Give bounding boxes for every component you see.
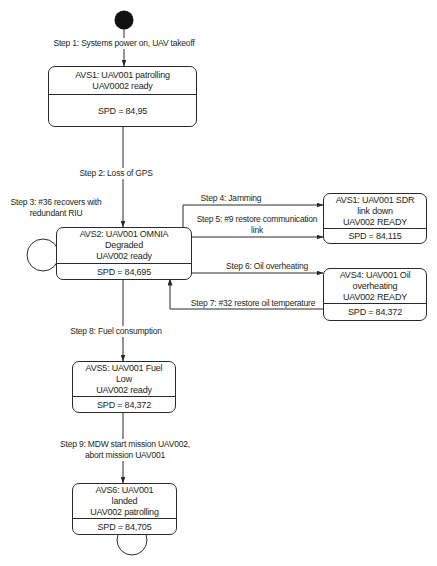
label-line: Step 5: #9 restore communication — [197, 214, 318, 225]
transition-label-step-7: Step 7: #32 restore oil temperature — [191, 298, 315, 309]
state-description: AVS1: UAV001 patrolling UAV0002 ready — [49, 67, 196, 95]
state-line: Degraded — [105, 240, 143, 251]
state-spd-value: SPD = 84,95 — [49, 95, 196, 126]
self-loop-arrow-step-3 — [27, 239, 59, 271]
label-line: Step 8: Fuel consumption — [70, 326, 162, 337]
initial-state-node — [115, 11, 134, 30]
label-line: Step 9: MDW start mission UAV002, — [60, 439, 190, 450]
state-description: AVS1: UAV001 SDR link down UAV002 READY — [324, 194, 426, 229]
state-spd-value: SPD = 84,695 — [57, 264, 191, 279]
state-line: UAV002 ready — [96, 385, 151, 396]
label-line: Step 7: #32 restore oil temperature — [191, 298, 315, 309]
label-line: Step 1: Systems power on, UAV takeoff — [53, 38, 194, 49]
state-line: link down — [357, 206, 393, 217]
state-diagram: AVS1: UAV001 patrolling UAV0002 ready SP… — [0, 0, 437, 566]
transition-label-step-9: Step 9: MDW start mission UAV002, abort … — [59, 439, 191, 461]
state-line: AVS1: UAV001 patrolling — [75, 70, 170, 81]
state-description: AVS5: UAV001 Fuel Low UAV002 ready — [73, 362, 175, 397]
state-line: AVS1: UAV001 SDR — [336, 195, 415, 206]
label-line: Step 2: Loss of GPS — [79, 168, 152, 179]
label-line: Step 3: #36 recovers with — [11, 197, 102, 208]
state-line: UAV002 patrolling — [90, 507, 158, 518]
state-avs2-omnia-degraded: AVS2: UAV001 OMNIA Degraded UAV002 ready… — [56, 227, 192, 280]
state-avs1-patrolling: AVS1: UAV001 patrolling UAV0002 ready SP… — [48, 66, 197, 127]
state-line: AVS2: UAV001 OMNIA — [80, 229, 169, 240]
state-line: UAV002 READY — [343, 217, 407, 228]
state-avs1-sdr-link-down: AVS1: UAV001 SDR link down UAV002 READY … — [323, 193, 427, 244]
state-avs6-landed: AVS6: UAV001 landed UAV002 patrolling SP… — [72, 483, 177, 535]
state-line: UAV002 ready — [96, 251, 151, 262]
state-description: AVS6: UAV001 landed UAV002 patrolling — [73, 484, 176, 519]
state-spd-value: SPD = 84,372 — [324, 304, 426, 320]
transition-label-step-3: Step 3: #36 recovers with redundant RIU — [11, 197, 102, 219]
state-description: AVS2: UAV001 OMNIA Degraded UAV002 ready — [57, 228, 191, 264]
state-spd-value: SPD = 84,705 — [73, 519, 176, 534]
state-line: AVS4: UAV001 Oil — [340, 270, 411, 281]
state-spd-value: SPD = 84,372 — [73, 397, 175, 412]
state-description: AVS4: UAV001 Oil overheating UAV002 READ… — [324, 269, 426, 304]
transition-label-step-2: Step 2: Loss of GPS — [78, 168, 153, 179]
state-line: AVS5: UAV001 Fuel — [86, 363, 163, 374]
state-line: UAV0002 ready — [92, 81, 152, 92]
state-avs5-fuel-low: AVS5: UAV001 Fuel Low UAV002 ready SPD =… — [72, 361, 176, 413]
label-line: link — [197, 225, 318, 236]
state-line: overheating — [353, 281, 398, 292]
state-spd-value: SPD = 84,115 — [324, 229, 426, 243]
state-line: Low — [116, 374, 132, 385]
transition-label-step-8: Step 8: Fuel consumption — [69, 326, 163, 337]
state-line: landed — [112, 496, 138, 507]
label-line: Step 6: Oil overheating — [226, 261, 308, 272]
label-line: Step 4: Jamming — [201, 193, 262, 204]
label-line: abort mission UAV001 — [60, 450, 190, 461]
transition-label-step-4: Step 4: Jamming — [201, 193, 262, 204]
transition-label-step-6: Step 6: Oil overheating — [226, 261, 308, 272]
transition-label-step-1: Step 1: Systems power on, UAV takeoff — [52, 38, 195, 49]
transition-label-step-5: Step 5: #9 restore communication link — [197, 214, 318, 236]
state-avs4-oil-overheating: AVS4: UAV001 Oil overheating UAV002 READ… — [323, 268, 427, 321]
state-line: AVS6: UAV001 — [96, 485, 154, 496]
state-line: UAV002 READY — [343, 292, 407, 303]
label-line: redundant RIU — [11, 208, 102, 219]
